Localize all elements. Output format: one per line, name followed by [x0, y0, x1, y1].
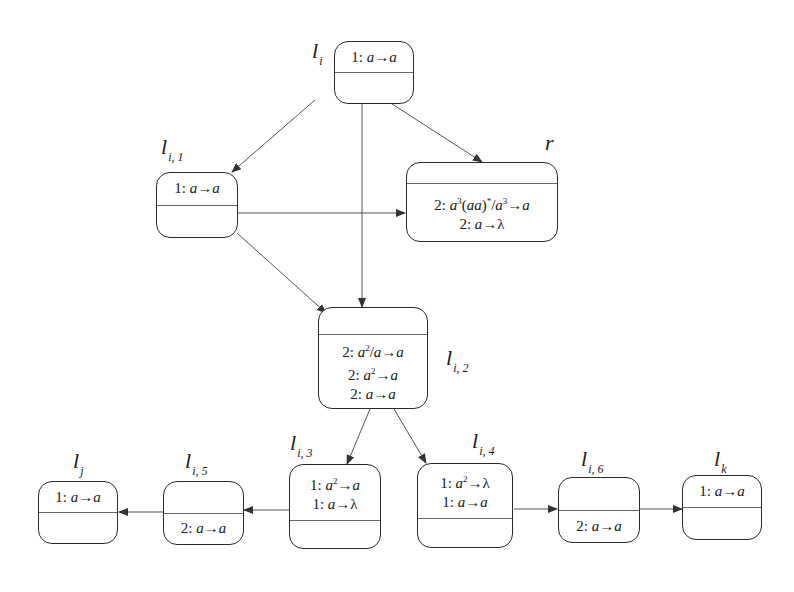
rule: 2: a→λ [459, 215, 504, 234]
edge-li-r [386, 100, 482, 162]
rule: 2: a3(aa)*/a3→a [434, 192, 530, 215]
node-li5[interactable]: 2: a→a [163, 481, 244, 545]
node-li1-upper: 1: a→a [157, 173, 237, 206]
node-li2[interactable]: 2: a2/a→a 2: a2→a 2: a→a [318, 307, 428, 409]
node-li4-lower [418, 519, 512, 547]
edge-li-li1 [232, 100, 315, 172]
node-li[interactable]: 1: a→a [334, 41, 414, 104]
node-li-lower [335, 73, 413, 103]
label-r: r [545, 132, 554, 154]
rule: 1: a→λ [312, 495, 357, 514]
node-li4-upper: 1: a2→λ 1: a→a [418, 464, 512, 519]
rule: 1: a→a [442, 493, 487, 512]
node-li3[interactable]: 1: a2→a 1: a→λ [289, 464, 381, 549]
node-li6[interactable]: 2: a→a [558, 477, 640, 543]
label-li5: li, 5 [185, 450, 207, 482]
node-r[interactable]: 2: a3(aa)*/a3→a 2: a→λ [406, 162, 558, 242]
node-lj-upper: 1: a→a [39, 482, 117, 513]
node-lk[interactable]: 1: a→a [682, 475, 762, 540]
node-li5-upper [164, 482, 243, 514]
label-li3: li, 3 [290, 432, 312, 464]
node-lj[interactable]: 1: a→a [38, 481, 118, 544]
node-li-upper: 1: a→a [335, 42, 413, 73]
node-li2-upper [319, 308, 427, 335]
rule: 1: a2→a [310, 472, 360, 495]
label-lj: lj [73, 450, 83, 482]
label-li: li [312, 40, 322, 72]
node-li5-lower: 2: a→a [164, 514, 243, 545]
node-lk-lower [683, 508, 761, 539]
rule: 1: a2→λ [440, 470, 490, 493]
label-li6: li, 6 [581, 448, 603, 480]
node-li6-upper [559, 478, 639, 511]
node-li6-lower: 2: a→a [559, 511, 639, 543]
rule: 1: a→a [351, 48, 396, 67]
node-li1[interactable]: 1: a→a [156, 172, 238, 238]
rule: 2: a2/a→a [342, 339, 404, 362]
label-li2: li, 2 [446, 347, 468, 379]
rule: 1: a→a [55, 488, 100, 507]
edge-li1-li2 [237, 233, 326, 313]
node-r-upper [407, 163, 557, 184]
rule: 2: a→a [181, 519, 226, 538]
node-lk-upper: 1: a→a [683, 476, 761, 508]
node-r-lower: 2: a3(aa)*/a3→a 2: a→λ [407, 184, 557, 241]
node-li4[interactable]: 1: a2→λ 1: a→a [417, 463, 513, 548]
label-li1: li, 1 [161, 136, 183, 168]
rule: 2: a→a [350, 385, 395, 404]
label-li4: li, 4 [472, 430, 494, 462]
node-li3-lower [290, 521, 380, 548]
node-li3-upper: 1: a2→a 1: a→λ [290, 465, 380, 521]
rule: 2: a→a [576, 517, 621, 536]
node-li2-lower: 2: a2/a→a 2: a2→a 2: a→a [319, 335, 427, 408]
node-lj-lower [39, 513, 117, 543]
edge-li2-li4 [394, 409, 426, 463]
rule: 1: a→a [699, 482, 744, 501]
edge-li2-li3 [347, 409, 370, 464]
node-li1-lower [157, 206, 237, 238]
rule: 1: a→a [174, 179, 219, 198]
rule: 2: a2→a [348, 362, 398, 385]
